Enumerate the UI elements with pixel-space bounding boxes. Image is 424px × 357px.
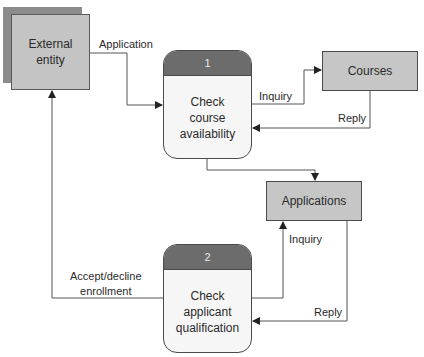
- process-number: 1: [204, 57, 210, 69]
- process-body: Check applicant qualification: [164, 270, 251, 353]
- flow-label-reply-applications: Reply: [314, 305, 342, 319]
- flow-inquiry-applications-line: [252, 222, 283, 298]
- data-store-courses: Courses: [322, 51, 418, 91]
- external-entity-label: External entity: [28, 36, 72, 68]
- flow-label-inquiry-courses: Inquiry: [259, 89, 292, 103]
- process-number: 2: [204, 251, 210, 263]
- process-label: Check course availability: [180, 94, 235, 142]
- flow-application-line: [90, 53, 162, 105]
- process-check-applicant-qualification: 2 Check applicant qualification: [163, 244, 252, 353]
- flow-label-inquiry-applications: Inquiry: [289, 232, 322, 246]
- flow-label-accept-decline: Accept/decline enrollment: [70, 269, 142, 299]
- flow-label-reply-courses: Reply: [338, 111, 366, 125]
- process-body: Check course availability: [164, 76, 251, 159]
- data-store-label: Courses: [348, 64, 393, 78]
- process-check-course-availability: 1 Check course availability: [163, 50, 252, 159]
- flow-label-application: Application: [99, 37, 153, 51]
- data-store-applications: Applications: [266, 181, 362, 221]
- process-number-badge: 2: [164, 245, 251, 270]
- process-number-badge: 1: [164, 51, 251, 76]
- external-entity: External entity: [11, 14, 90, 90]
- process-label: Check applicant qualification: [176, 288, 239, 336]
- data-flow-diagram: External entity 1 Check course availabil…: [0, 0, 424, 357]
- data-store-label: Applications: [282, 194, 347, 208]
- flow-p1-to-applications-line: [207, 159, 315, 180]
- flow-accept-decline-line: [52, 91, 163, 298]
